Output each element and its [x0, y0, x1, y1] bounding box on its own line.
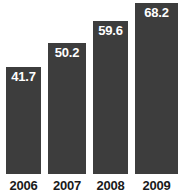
bar-2009[interactable]: 68.2 — [135, 3, 178, 174]
x-axis-labels: 2006 2007 2008 2009 — [0, 174, 185, 195]
x-axis-label-2009: 2009 — [135, 178, 178, 193]
plot-area: 41.7 50.2 59.6 68.2 — [0, 0, 185, 174]
bar-value-label: 41.7 — [6, 70, 41, 84]
x-axis-label-2006: 2006 — [6, 178, 41, 193]
bar-value-label: 59.6 — [93, 24, 128, 38]
x-axis-label-2007: 2007 — [48, 178, 86, 193]
x-axis-label-2008: 2008 — [93, 178, 128, 193]
bar-2008[interactable]: 59.6 — [93, 21, 128, 174]
bar-2006[interactable]: 41.7 — [6, 67, 41, 174]
bar-2007[interactable]: 50.2 — [48, 43, 86, 174]
bar-value-label: 50.2 — [48, 46, 86, 60]
bar-chart: 41.7 50.2 59.6 68.2 2006 2007 2008 2009 — [0, 0, 185, 195]
bar-value-label: 68.2 — [135, 6, 178, 20]
